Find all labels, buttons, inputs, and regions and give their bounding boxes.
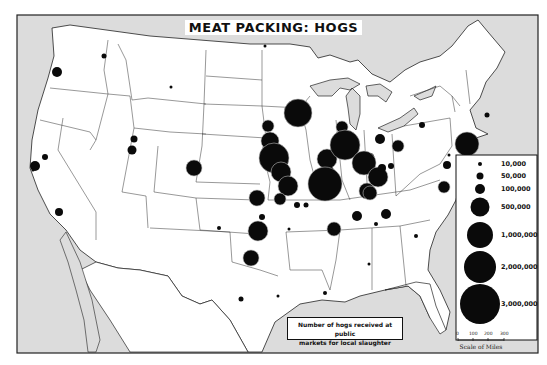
market-dot — [42, 154, 48, 160]
market-dot — [186, 160, 202, 176]
market-dot — [392, 140, 404, 152]
legend-label: 50,000 — [501, 172, 526, 180]
legend-label: 2,000,000 — [501, 263, 538, 271]
legend-label: 100,000 — [501, 185, 531, 193]
market-dot — [243, 250, 259, 266]
market-dot — [438, 181, 450, 193]
legend-circle — [477, 173, 484, 180]
legend-circle — [475, 184, 485, 194]
market-dot — [239, 297, 244, 302]
market-dot — [55, 208, 63, 216]
market-dot — [30, 161, 40, 171]
market-dot — [368, 263, 371, 266]
market-dot — [288, 228, 291, 231]
market-dot — [249, 190, 265, 206]
legend-label: 10,000 — [501, 160, 526, 168]
market-dot — [259, 214, 265, 220]
market-dot — [170, 86, 173, 89]
market-dot — [378, 164, 386, 172]
market-dot — [388, 163, 394, 169]
legend-circle — [464, 251, 496, 283]
legend-label: 3,000,000 — [501, 300, 538, 308]
market-dot — [304, 203, 309, 208]
legend-circle — [467, 222, 493, 248]
scale-label: Scale of Miles — [446, 343, 516, 350]
caption-line-2: markets for local slaughter — [288, 338, 402, 347]
market-dot — [485, 113, 490, 118]
market-dot — [443, 161, 451, 169]
us-map — [0, 0, 547, 365]
market-dot — [327, 222, 341, 236]
market-dot — [264, 45, 267, 48]
market-dot — [374, 222, 378, 226]
market-dot — [52, 67, 62, 77]
market-dot — [262, 120, 274, 132]
market-dot — [274, 193, 286, 205]
market-dot — [352, 211, 362, 221]
scale-tick-200: 200 — [484, 331, 493, 336]
market-dot — [277, 295, 280, 298]
market-dot — [375, 134, 385, 144]
scale-tick-300: 300 — [500, 331, 509, 336]
title-text: MEAT PACKING: HOGS — [185, 20, 362, 35]
legend-circle — [460, 284, 500, 324]
market-dot — [248, 221, 268, 241]
market-dot — [102, 54, 107, 59]
market-dot — [131, 136, 138, 143]
legend-label: 1,000,000 — [501, 231, 538, 239]
map-title: MEAT PACKING: HOGS — [0, 20, 547, 35]
legend-label: 500,000 — [501, 203, 531, 211]
scale-tick-0: 0 — [456, 331, 459, 336]
market-dot — [381, 209, 391, 219]
market-dot — [32, 169, 35, 172]
legend-circle — [478, 162, 482, 166]
market-dot — [308, 167, 342, 201]
market-dot — [284, 99, 312, 127]
market-dot — [323, 291, 327, 295]
market-dot — [448, 154, 451, 157]
caption-line-1: Number of hogs received at public — [288, 320, 402, 338]
market-dot — [414, 234, 418, 238]
legend-circle — [471, 198, 490, 217]
map-caption: Number of hogs received at public market… — [287, 317, 403, 340]
market-dot — [455, 132, 479, 156]
market-dot — [128, 146, 137, 155]
market-dot — [294, 202, 300, 208]
market-dot — [419, 122, 425, 128]
market-dot — [363, 186, 377, 200]
market-dot — [217, 226, 221, 230]
scale-tick-100: 100 — [469, 331, 478, 336]
